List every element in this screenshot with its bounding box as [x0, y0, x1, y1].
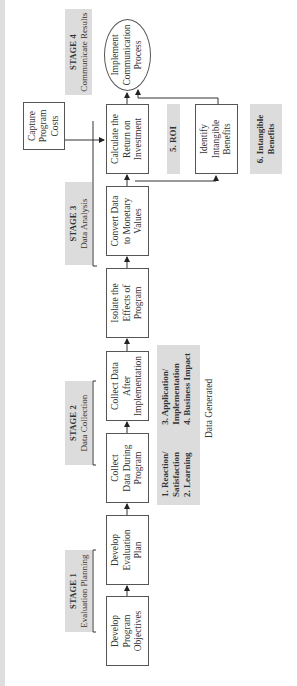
roi-process-diagram: STAGE 1 Evaluation Planning STAGE 2 Data…: [0, 0, 297, 686]
step-collect-after-implementation: Collect Data After Implementation: [106, 351, 149, 421]
step-develop-objectives: Develop Program Objectives: [106, 596, 149, 666]
data-generated-box: 1. Reaction/ Satisfaction 2. Learning 3.…: [157, 345, 200, 505]
roi-level-label: 5. ROI: [167, 104, 180, 174]
step-isolate-effects: Isolate the Effects of Program: [106, 268, 149, 338]
step-convert-monetary: Convert Data to Monetary Values: [106, 186, 149, 256]
data-levels-1-2: 1. Reaction/ Satisfaction 2. Learning: [160, 452, 193, 498]
step-implement-communication: Implement Communication Process: [104, 19, 151, 91]
step-develop-evaluation-plan: Develop Evaluation Plan: [106, 515, 149, 585]
intangible-level-label: 6. Intangible Benefits: [250, 104, 282, 174]
step-identify-intangible-benefits: Identify Intangible Benefits: [195, 104, 238, 174]
data-generated-caption: Data Generated: [204, 379, 214, 438]
step-capture-program-costs: Capture Program Costs: [23, 102, 65, 150]
data-levels-3-4: 3. Application/ Implementation 4. Busine…: [160, 353, 193, 425]
step-calculate-roi: Calculate the Return on Investment: [106, 104, 149, 174]
step-collect-during-program: Collect Data During Program: [106, 433, 149, 503]
